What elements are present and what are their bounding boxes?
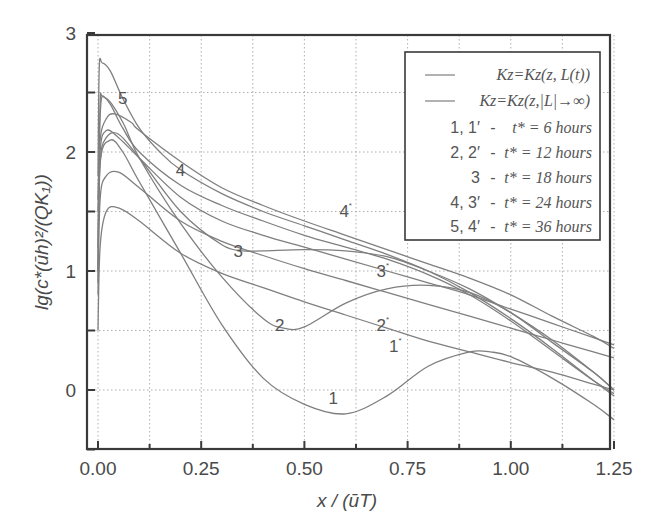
- y-axis-title: lg(c*(ūh)²/(QK₁)): [31, 174, 52, 310]
- legend-key: 1, 1′: [450, 119, 480, 136]
- legend-key: 4, 3′: [450, 194, 480, 211]
- y-tick-label: 1: [65, 261, 76, 282]
- legend-dash: -: [490, 194, 495, 211]
- y-tick-label: 2: [65, 142, 76, 163]
- legend-dash: -: [490, 169, 495, 186]
- y-axis-tick-labels: 0123: [65, 23, 76, 401]
- legend-entry: t* = 18 hours: [504, 169, 592, 186]
- x-tick-label: 0.75: [389, 458, 426, 479]
- curve-label-1: 1: [329, 389, 338, 408]
- curve-label-4: 4: [176, 161, 185, 180]
- x-axis-tick-labels: 0.000.250.500.751.001.25: [80, 458, 633, 479]
- x-tick-label: 1.00: [492, 458, 529, 479]
- x-tick-label: 1.25: [596, 458, 633, 479]
- x-tick-label: 0.00: [80, 458, 117, 479]
- legend-dash: -: [490, 144, 495, 161]
- legend: Kz=Kz(z, L(t))Kz=Kz(z,|L|→∞)1, 1′-t* = 6…: [405, 52, 600, 240]
- curve-label-1-star: 1*: [389, 336, 402, 356]
- legend-dash: -: [490, 119, 495, 136]
- legend-entry: Kz=Kz(z, L(t)): [496, 66, 590, 84]
- curve-label-2-star: 2*: [377, 315, 390, 335]
- legend-entry: Kz=Kz(z,|L|→∞): [478, 92, 590, 110]
- legend-entry: t* = 36 hours: [504, 218, 592, 235]
- legend-entry: t* = 6 hours: [512, 119, 592, 136]
- legend-key: 3: [471, 169, 480, 186]
- x-tick-label: 0.25: [183, 458, 220, 479]
- curve-label-4-star: 4*: [339, 201, 352, 221]
- legend-entry: t* = 24 hours: [504, 194, 592, 211]
- y-tick-label: 0: [65, 380, 76, 401]
- line-chart: 11*22*33*44*5 0.000.250.500.751.001.25 0…: [0, 0, 651, 526]
- x-tick-label: 0.50: [286, 458, 323, 479]
- curve-label-5: 5: [118, 89, 127, 108]
- legend-key: 2, 2′: [450, 144, 480, 161]
- curve-labels: 11*22*33*44*5: [118, 89, 401, 408]
- curve-label-2: 2: [275, 316, 284, 335]
- legend-key: 5, 4′: [450, 218, 480, 235]
- x-axis-title: x / (ūT): [316, 490, 377, 511]
- y-tick-label: 3: [65, 23, 76, 44]
- curve-label-3: 3: [234, 242, 243, 261]
- legend-dash: -: [490, 218, 495, 235]
- legend-entry: t* = 12 hours: [504, 144, 592, 161]
